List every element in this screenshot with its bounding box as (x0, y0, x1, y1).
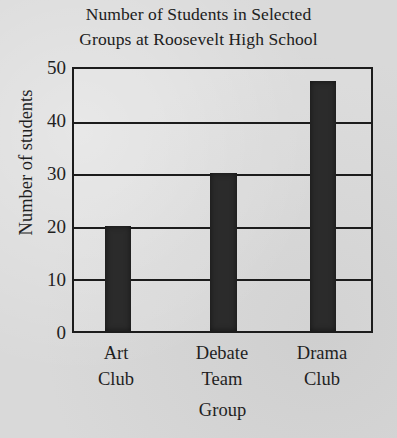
x-label-debate-team-line-1: Debate (196, 343, 248, 363)
x-label-debate-team-line-2: Team (172, 366, 272, 392)
y-tick-40: 40 (2, 111, 66, 130)
y-axis-tick-labels: 50 40 30 20 10 0 (0, 67, 66, 333)
x-label-drama-club-line-2: Club (272, 366, 372, 392)
x-axis-tick-labels: Art Club Debate Team Drama Club (72, 340, 373, 398)
chart-title: Number of Students in Selected Groups at… (0, 2, 397, 52)
y-tick-20: 20 (2, 217, 66, 236)
bar-drama-club (310, 81, 336, 331)
chart-page: Number of Students in Selected Groups at… (0, 0, 397, 438)
x-axis-title: Group (72, 400, 373, 421)
chart-title-line-2: Groups at Roosevelt High School (0, 27, 397, 52)
plot-area (72, 67, 373, 333)
y-tick-50: 50 (2, 58, 66, 77)
y-tick-30: 30 (2, 164, 66, 183)
x-label-drama-club: Drama Club (272, 340, 372, 392)
x-label-art-club: Art Club (66, 340, 166, 392)
x-label-art-club-line-1: Art (104, 343, 129, 363)
bars-layer (74, 69, 371, 331)
x-label-drama-club-line-1: Drama (297, 343, 347, 363)
bar-debate-team (210, 173, 237, 331)
bar-art-club (105, 226, 131, 331)
y-tick-0: 0 (2, 323, 66, 342)
x-label-debate-team: Debate Team (172, 340, 272, 392)
y-tick-10: 10 (2, 270, 66, 289)
chart-title-line-1: Number of Students in Selected (86, 4, 312, 24)
x-label-art-club-line-2: Club (66, 366, 166, 392)
